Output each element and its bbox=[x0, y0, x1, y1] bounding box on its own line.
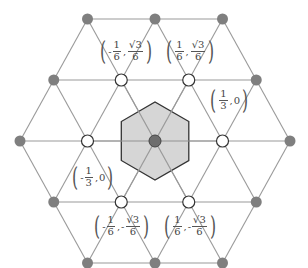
label-neg-sixth-sqrt3: (- 16 , √36 ) bbox=[98, 38, 154, 64]
gray-node bbox=[150, 14, 161, 25]
gray-node bbox=[217, 258, 228, 268]
lattice-edge bbox=[54, 202, 88, 263]
center-node bbox=[149, 135, 161, 147]
gray-node bbox=[15, 136, 26, 147]
label-sixth-sqrt3: ( 16 , √36 ) bbox=[164, 38, 217, 64]
lattice-edge bbox=[223, 19, 257, 80]
lattice-edge bbox=[54, 19, 88, 80]
lattice-edge bbox=[54, 80, 88, 141]
lattice-edge bbox=[256, 141, 290, 202]
gray-node bbox=[217, 14, 228, 25]
lattice-edge bbox=[20, 80, 54, 141]
gray-node bbox=[150, 258, 161, 268]
hollow-node bbox=[82, 135, 94, 147]
hollow-node bbox=[115, 74, 127, 86]
lattice-edge bbox=[20, 141, 54, 202]
lattice-diagram: (- 16 , √36 ) ( 16 , √36 ) ( 13 ,0 ) (- … bbox=[0, 0, 308, 268]
gray-node bbox=[82, 14, 93, 25]
gray-node bbox=[285, 136, 296, 147]
lattice-edge bbox=[256, 80, 290, 141]
lattice-edge bbox=[223, 202, 257, 263]
label-neg-third-zero: (- 13 ,0 ) bbox=[70, 164, 116, 190]
label-neg-sixth-neg-sqrt3: (- 16 ,- √36 ) bbox=[92, 213, 151, 239]
lattice-edge bbox=[189, 141, 223, 202]
gray-node bbox=[251, 75, 262, 86]
label-sixth-neg-sqrt3: ( 16 ,- √36 ) bbox=[162, 213, 218, 239]
lattice-svg bbox=[0, 0, 308, 268]
lattice-edge bbox=[223, 141, 257, 202]
label-third-zero: ( 13 ,0 ) bbox=[208, 87, 250, 113]
hollow-node bbox=[183, 74, 195, 86]
hollow-node bbox=[115, 196, 127, 208]
gray-node bbox=[48, 197, 59, 208]
hollow-node bbox=[183, 196, 195, 208]
gray-node bbox=[48, 75, 59, 86]
hollow-node bbox=[217, 135, 229, 147]
lattice-edge bbox=[88, 80, 122, 141]
gray-node bbox=[82, 258, 93, 268]
gray-node bbox=[251, 197, 262, 208]
